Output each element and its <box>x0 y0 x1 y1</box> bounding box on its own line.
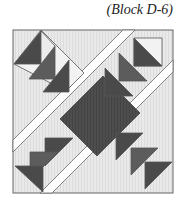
quilt-block-diagram <box>0 0 183 202</box>
